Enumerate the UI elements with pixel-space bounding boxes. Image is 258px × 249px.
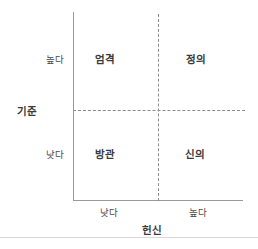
vertical-divider-dashed-line — [158, 14, 159, 201]
quadrant-label-top-right: 정의 — [186, 51, 207, 66]
x-axis-title: 헌신 — [142, 222, 162, 237]
x-axis-tick-label-high: 높다 — [189, 205, 207, 219]
quadrant-chart: 엄격 정의 방관 신의 높다 낮다 낮다 높다 기준 헌신 — [0, 0, 258, 249]
x-axis-tick-label-low: 낮다 — [100, 205, 118, 219]
quadrant-label-top-left: 엄격 — [95, 51, 116, 66]
horizontal-divider-dashed-line — [73, 110, 245, 111]
quadrant-label-bottom-right: 신의 — [185, 146, 206, 161]
y-axis-title: 기준 — [17, 103, 37, 118]
y-axis-tick-label-high: 높다 — [46, 52, 64, 66]
quadrant-label-bottom-left: 방관 — [95, 146, 116, 161]
bottom-divider-rule — [0, 237, 258, 238]
y-axis-line — [73, 12, 74, 201]
y-axis-tick-label-low: 낮다 — [46, 147, 64, 161]
